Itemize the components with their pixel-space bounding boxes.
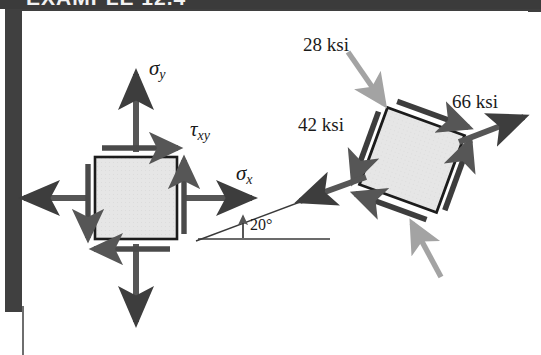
- tau-xy-label: τxy: [190, 117, 210, 144]
- left-stress-element-group: [24, 74, 332, 322]
- sigma-x-label: σx: [236, 161, 253, 188]
- sigma-42ksi-arrow: [300, 177, 366, 201]
- pointer-28ksi-top-arrow: [348, 52, 384, 104]
- left-square: [95, 157, 177, 239]
- angle-20-label: 20°: [250, 216, 272, 234]
- figure-canvas: EXAMPLE 12.4 σy σx τxy 20° 28 ksi 42 ksi…: [0, 0, 541, 355]
- sigma-66ksi-arrow: [459, 117, 524, 142]
- sigma-y-label: σy: [149, 56, 166, 83]
- stress-label-66ksi: 66 ksi: [452, 91, 498, 113]
- stress-label-42ksi: 42 ksi: [298, 114, 344, 136]
- example-title-text: EXAMPLE 12.4: [26, 0, 186, 9]
- stress-label-28ksi: 28 ksi: [303, 34, 349, 56]
- example-title-bar: EXAMPLE 12.4: [0, 0, 541, 9]
- right-stress-element-group: [300, 52, 524, 277]
- stress-figure-svg: [0, 0, 541, 355]
- pointer-28ksi-bottom-arrow: [412, 223, 441, 277]
